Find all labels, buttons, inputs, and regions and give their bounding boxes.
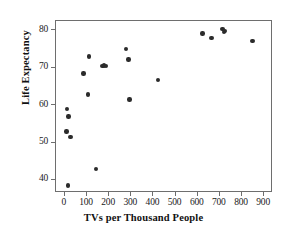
x-tick-label: 900	[246, 197, 280, 208]
x-tick-mark	[241, 192, 242, 196]
data-point	[209, 36, 213, 40]
data-point	[124, 47, 128, 51]
y-tick-label: 80	[20, 24, 48, 35]
x-tick-mark	[86, 192, 87, 196]
plot-area	[55, 20, 272, 192]
data-point	[223, 29, 227, 33]
data-point	[64, 129, 68, 133]
x-tick-mark	[175, 192, 176, 196]
y-tick-mark	[51, 67, 55, 68]
scatter-plot-figure: TVs per Thousand People Life Expectancy …	[0, 0, 287, 235]
x-tick-mark	[263, 192, 264, 196]
y-tick-label: 40	[20, 173, 48, 184]
data-point	[200, 31, 204, 35]
x-tick-mark	[152, 192, 153, 196]
x-tick-mark	[108, 192, 109, 196]
data-point	[250, 39, 254, 43]
data-point	[65, 107, 69, 111]
y-tick-mark	[51, 29, 55, 30]
x-axis-title: TVs per Thousand People	[0, 212, 287, 223]
y-tick-mark	[51, 104, 55, 105]
y-tick-mark	[51, 142, 55, 143]
data-point	[127, 97, 131, 101]
data-point	[66, 114, 70, 118]
y-tick-label: 50	[20, 136, 48, 147]
x-tick-mark	[197, 192, 198, 196]
data-point	[126, 57, 130, 61]
data-point	[81, 71, 85, 75]
data-point	[104, 64, 108, 68]
y-tick-label: 60	[20, 99, 48, 110]
x-tick-mark	[130, 192, 131, 196]
y-tick-label: 70	[20, 61, 48, 72]
data-point	[156, 78, 160, 82]
data-point	[87, 54, 91, 58]
y-tick-mark	[51, 179, 55, 180]
data-point	[94, 167, 98, 171]
data-point	[86, 92, 90, 96]
data-point	[66, 183, 70, 187]
x-tick-mark	[64, 192, 65, 196]
data-point	[68, 135, 72, 139]
x-tick-mark	[219, 192, 220, 196]
